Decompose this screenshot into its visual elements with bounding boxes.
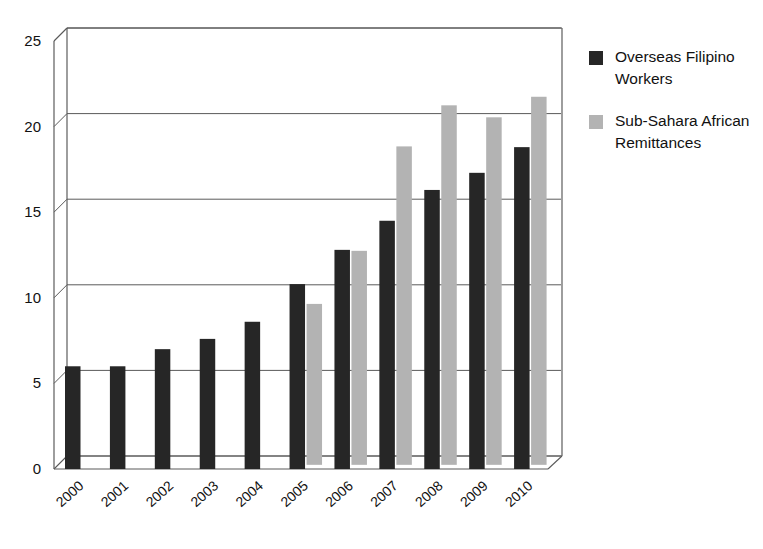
y-axis-tick-label: 10 <box>24 289 41 306</box>
bar-sub-sahara-african-remittances <box>307 304 323 465</box>
chart-canvas: 0510152025 20002001200220032004200520062… <box>0 0 763 549</box>
bar-chart: 0510152025 20002001200220032004200520062… <box>0 0 763 549</box>
x-axis-tick-labels: 2000200120022003200420052006200720082009… <box>53 477 536 510</box>
depth-edge-bottom-right <box>548 456 562 469</box>
bar-overseas-filipino-workers <box>334 250 350 469</box>
x-axis-tick-label: 2006 <box>322 477 356 510</box>
bar-sub-sahara-african-remittances <box>351 251 367 465</box>
bar-overseas-filipino-workers <box>514 147 530 469</box>
x-axis-tick-label: 2000 <box>53 477 87 510</box>
bar-sub-sahara-african-remittances <box>396 146 412 464</box>
gridline <box>54 28 561 41</box>
legend-item-sub-sahara-african-remittances[interactable]: Sub-Sahara AfricanRemittances <box>589 112 749 151</box>
bar-sub-sahara-african-remittances <box>486 117 502 465</box>
x-axis-tick-label: 2003 <box>187 477 221 510</box>
bar-group <box>155 349 171 469</box>
x-axis-tick-label: 2010 <box>502 477 536 510</box>
legend: Overseas FilipinoWorkersSub-Sahara Afric… <box>589 48 749 151</box>
bar-overseas-filipino-workers <box>469 173 485 469</box>
x-axis-tick-label: 2002 <box>142 477 176 510</box>
legend-label: Overseas Filipino <box>615 48 735 65</box>
bar-overseas-filipino-workers <box>110 366 126 469</box>
x-axis-tick-label: 2007 <box>367 477 401 510</box>
legend-swatch-dark <box>589 51 603 65</box>
x-axis-tick-label: 2005 <box>277 477 311 510</box>
x-axis-tick-label: 2009 <box>457 477 491 510</box>
bar-group <box>110 366 126 469</box>
legend-label: Workers <box>615 70 673 87</box>
legend-swatch-gray <box>589 115 603 129</box>
bar-group <box>514 97 547 469</box>
bar-group <box>424 105 457 469</box>
bar-group <box>290 284 323 469</box>
bar-overseas-filipino-workers <box>379 221 395 469</box>
legend-label: Remittances <box>615 134 701 151</box>
x-axis-tick-label: 2004 <box>232 477 266 510</box>
bar-group <box>334 250 367 469</box>
y-axis-tick-label: 0 <box>33 460 41 477</box>
bar-overseas-filipino-workers <box>200 339 216 469</box>
y-axis-tick-label: 20 <box>24 118 41 135</box>
gridline <box>54 114 561 127</box>
bar-overseas-filipino-workers <box>65 366 81 469</box>
bar-group <box>469 117 502 469</box>
x-axis-tick-label: 2008 <box>412 477 446 510</box>
bar-group <box>379 146 412 469</box>
gridline <box>54 199 561 212</box>
bar-group <box>200 339 216 469</box>
bar-overseas-filipino-workers <box>424 190 440 469</box>
bar-group <box>245 322 260 469</box>
bar-overseas-filipino-workers <box>155 349 171 469</box>
bar-group <box>65 366 81 469</box>
legend-item-overseas-filipino-workers[interactable]: Overseas FilipinoWorkers <box>589 48 735 87</box>
bar-overseas-filipino-workers <box>290 284 306 469</box>
y-axis-tick-label: 25 <box>24 32 41 49</box>
y-axis-tick-labels: 0510152025 <box>24 32 41 477</box>
x-axis-tick-label: 2001 <box>98 477 132 510</box>
bars-layer <box>65 97 547 469</box>
bar-sub-sahara-african-remittances <box>441 105 457 465</box>
legend-label: Sub-Sahara African <box>615 112 749 129</box>
y-axis-tick-label: 5 <box>33 374 41 391</box>
gridline <box>54 285 561 298</box>
y-axis-tick-label: 15 <box>24 203 41 220</box>
bar-overseas-filipino-workers <box>245 322 260 469</box>
bar-sub-sahara-african-remittances <box>531 97 547 465</box>
